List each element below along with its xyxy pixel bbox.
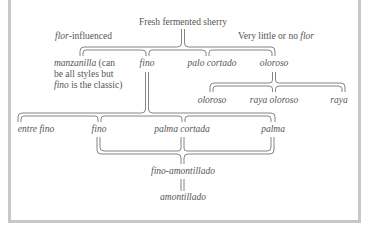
fino-child-palma-cortada: palma cortada bbox=[154, 124, 210, 135]
no-flor-emph: flor bbox=[300, 31, 314, 41]
no-flor-label: Very little or no flor bbox=[238, 31, 314, 42]
fino-child-palma: palma bbox=[261, 124, 285, 135]
manzanilla-name: manzanilla bbox=[54, 58, 96, 68]
oloroso-child-raya: raya bbox=[330, 95, 347, 106]
manzanilla-note3-rest: is the classic) bbox=[69, 80, 123, 90]
manzanilla-note1: (can bbox=[96, 58, 115, 68]
no-flor-rest: Very little or no bbox=[238, 31, 300, 41]
flor-influenced-label: flor-influenced bbox=[55, 31, 112, 42]
amontillado-node: amontillado bbox=[160, 192, 206, 203]
flor-influenced-rest: -influenced bbox=[69, 31, 112, 41]
flor-emph: flor bbox=[55, 31, 69, 41]
fino-amontillado-node: fino-amontillado bbox=[151, 166, 215, 177]
oloroso-node: oloroso bbox=[260, 58, 289, 69]
manzanilla-note2: be all styles but bbox=[54, 69, 122, 80]
palo-cortado-node: palo cortado bbox=[188, 58, 237, 69]
root-label: Fresh fermented sherry bbox=[139, 17, 227, 28]
manzanilla-node: manzanilla (can be all styles but fino i… bbox=[54, 58, 122, 91]
fino-child-entre-fino: entre fino bbox=[18, 124, 54, 135]
fino-node: fino bbox=[140, 58, 155, 69]
manzanilla-note3-emph: fino bbox=[54, 80, 69, 90]
oloroso-child-raya-oloroso: raya oloroso bbox=[250, 95, 298, 106]
fino-child-fino: fino bbox=[92, 124, 107, 135]
oloroso-child-oloroso: oloroso bbox=[198, 95, 227, 106]
